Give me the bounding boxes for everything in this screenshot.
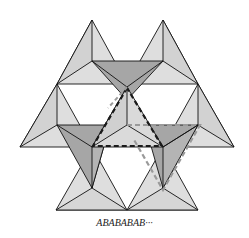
tetrahedron-center [92,87,163,147]
tetrahedra-stacking-diagram [0,0,249,238]
stacking-sequence-caption: ABABABAB··· [0,217,249,228]
